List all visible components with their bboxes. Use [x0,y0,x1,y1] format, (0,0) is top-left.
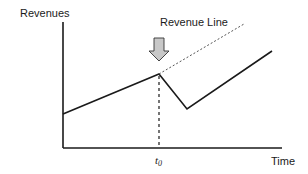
x-axis-label: Time [271,155,295,167]
actual-revenue-line [63,51,272,114]
t0-subscript: 0 [158,159,162,168]
revenue-line-label: Revenue Line [160,16,228,28]
t0-label: t0 [155,154,162,168]
revenue-diagram: Revenues Revenue Line Time t0 [0,0,308,174]
y-axis-label: Revenues [20,7,70,19]
down-arrow-icon [149,38,169,61]
projected-revenue-line [159,24,244,74]
